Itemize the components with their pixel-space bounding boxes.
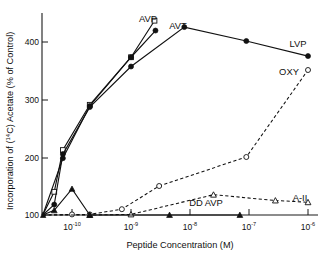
x-tick-label-1e-9: 10-9	[124, 221, 138, 232]
chart-container: Incorporation of (14C) Acetate (% of Con…	[0, 0, 328, 255]
data-point	[119, 207, 124, 212]
series-label-oxy: OXY	[279, 66, 300, 77]
series-line	[43, 70, 308, 215]
data-point	[153, 28, 158, 33]
data-point	[306, 54, 311, 59]
data-point	[244, 155, 249, 160]
data-point	[157, 184, 162, 189]
x-tick-label-1e-6: 10-6	[301, 221, 315, 232]
x-tick-label-1e-8: 10-8	[183, 221, 197, 232]
series-lvp	[43, 25, 311, 215]
series-layer	[41, 18, 311, 217]
svg-text:Incorporation of (14C) Acetate: Incorporation of (14C) Acetate (% of Con…	[5, 32, 15, 210]
series-oxy	[43, 68, 311, 217]
series-avt	[43, 28, 158, 215]
data-point	[87, 105, 92, 110]
y-axis-title: Incorporation of (14C) Acetate (% of Con…	[5, 32, 15, 210]
y-tick-label-300: 300	[25, 95, 39, 105]
data-point	[129, 64, 134, 69]
x-tick-label-1e-10: 10-10	[63, 221, 81, 232]
line-chart: Incorporation of (14C) Acetate (% of Con…	[0, 0, 328, 255]
data-point	[70, 212, 75, 217]
x-axis-title: Peptide Concentration (M)	[126, 240, 233, 250]
y-axis-ticks: 400 300 200 100	[25, 37, 48, 220]
series-label-lvp: LVP	[289, 38, 306, 49]
series-line	[43, 31, 156, 215]
data-point	[60, 152, 65, 157]
y-tick-label-200: 200	[25, 153, 39, 163]
series-label-dd-avp: DD AVP	[189, 197, 223, 208]
x-tick-label-1e-7: 10-7	[242, 221, 256, 232]
data-point	[52, 202, 57, 207]
y-axis-title-suffix: C) Acetate (% of Control)	[5, 32, 15, 134]
y-tick-label-100: 100	[25, 210, 39, 220]
series-label-avt: AVT	[169, 20, 187, 31]
data-point	[69, 186, 75, 191]
data-point	[129, 55, 134, 60]
data-point	[306, 68, 311, 73]
y-axis-title-prefix: Incorporation of (	[5, 141, 15, 210]
series-label-a-ii: A-II	[293, 192, 308, 203]
y-tick-label-400: 400	[25, 37, 39, 47]
series-label-avp: AVP	[139, 13, 157, 24]
data-point	[244, 39, 249, 44]
